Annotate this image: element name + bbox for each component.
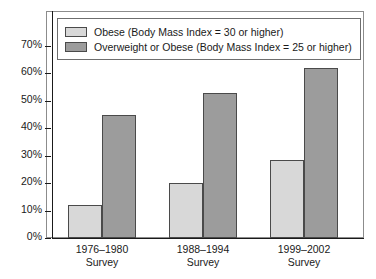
y-axis-tick-mark <box>45 128 51 129</box>
y-axis-tick-label: 40% <box>21 121 42 132</box>
x-axis-label-survey: Survey <box>148 256 258 269</box>
y-axis-tick-label: 70% <box>21 39 42 50</box>
x-axis-label-period: 1999–2002 <box>278 243 331 255</box>
x-axis-label-period: 1976–1980 <box>76 243 129 255</box>
y-axis-tick-label: 60% <box>21 66 42 77</box>
x-axis-label: 1999–2002Survey <box>249 243 359 269</box>
y-axis-tick-mark <box>45 238 51 239</box>
x-axis-label-survey: Survey <box>249 256 359 269</box>
bar-obese <box>68 205 102 238</box>
bar-overweight-or-obese <box>304 68 338 238</box>
bar-overweight-or-obese <box>203 93 237 238</box>
bar-obese <box>270 160 304 238</box>
y-axis-tick-mark <box>45 211 51 212</box>
y-axis-tick-mark <box>45 46 51 47</box>
legend-label-overweight: Overweight or Obese (Body Mass Index = 2… <box>94 41 352 53</box>
y-axis-tick-mark <box>45 101 51 102</box>
legend-label-obese: Obese (Body Mass Index = 30 or higher) <box>94 26 283 38</box>
x-axis-label: 1988–1994Survey <box>148 243 258 269</box>
x-axis-label-period: 1988–1994 <box>177 243 230 255</box>
y-axis-tick-label: 50% <box>21 94 42 105</box>
y-axis-tick-mark <box>45 156 51 157</box>
x-axis-label: 1976–1980Survey <box>47 243 157 269</box>
legend-item: Overweight or Obese (Body Mass Index = 2… <box>65 39 352 54</box>
y-axis-tick-label: 0% <box>27 231 42 242</box>
y-axis-tick-label: 10% <box>21 204 42 215</box>
x-axis-label-survey: Survey <box>47 256 157 269</box>
legend-item: Obese (Body Mass Index = 30 or higher) <box>65 24 352 39</box>
y-axis-tick-label: 30% <box>21 149 42 160</box>
chart-legend: Obese (Body Mass Index = 30 or higher) O… <box>57 18 361 60</box>
bar-obese <box>169 183 203 238</box>
x-axis-line <box>52 238 364 239</box>
bar-overweight-or-obese <box>102 115 136 238</box>
legend-swatch-obese <box>65 27 87 37</box>
y-axis-tick-label: 20% <box>21 176 42 187</box>
legend-swatch-overweight <box>65 42 87 52</box>
bar-chart: 0%10%20%30%40%50%60%70% 1976–1980Survey1… <box>0 0 376 279</box>
y-axis-tick-mark <box>45 73 51 74</box>
y-axis-tick-mark <box>45 183 51 184</box>
